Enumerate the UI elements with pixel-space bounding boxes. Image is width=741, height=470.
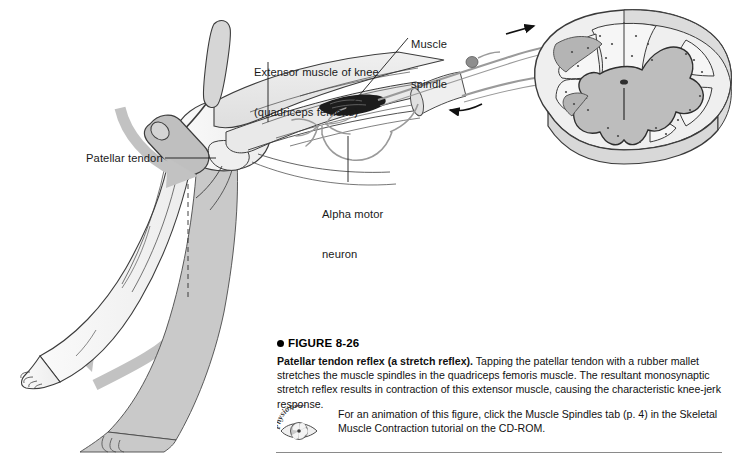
- spinal-cord-cross-section: [535, 10, 732, 164]
- arrow-efferent-direction: [450, 104, 482, 111]
- label-alpha-motor-neuron: Alpha motor neuron: [322, 182, 383, 288]
- physioedge-logo-graphic: PhysioEdge: [277, 405, 329, 441]
- figure-number-row: FIGURE 8-26: [277, 337, 721, 349]
- label-extensor-line2: (quadriceps femoris): [254, 106, 379, 119]
- pupil-icon: [297, 429, 301, 433]
- physioedge-logo: PhysioEdge: [277, 405, 329, 441]
- figure-patellar-tendon-reflex: Extensor muscle of knee (quadriceps femo…: [0, 0, 741, 470]
- filled-circle-icon: [277, 340, 284, 347]
- caption-divider: [276, 452, 722, 453]
- label-patellar-tendon: Patellar tendon: [86, 152, 163, 165]
- label-muscle-spindle: Muscle spindle: [411, 12, 447, 118]
- label-alpha-motor-line1: Alpha motor: [322, 208, 383, 221]
- label-muscle-spindle-line2: spindle: [411, 78, 447, 91]
- cdrom-note-text: For an animation of this figure, click t…: [338, 405, 721, 435]
- label-extensor-muscle-of-knee: Extensor muscle of knee (quadriceps femo…: [254, 40, 379, 146]
- figure-caption-block: FIGURE 8-26 Patellar tendon reflex (a st…: [277, 337, 721, 411]
- arrow-afferent-direction: [506, 26, 534, 34]
- leg-relaxed-shaded: [80, 140, 238, 452]
- figure-caption-text: Patellar tendon reflex (a stretch reflex…: [277, 354, 721, 411]
- figure-number-label: FIGURE 8-26: [288, 337, 359, 349]
- label-extensor-line1: Extensor muscle of knee: [254, 66, 379, 79]
- label-muscle-spindle-line1: Muscle: [411, 38, 447, 51]
- figure-caption-title: Patellar tendon reflex (a stretch reflex…: [277, 355, 473, 367]
- cdrom-note-row: PhysioEdge For an animation of this figu…: [277, 405, 721, 441]
- label-alpha-motor-line2: neuron: [322, 248, 383, 261]
